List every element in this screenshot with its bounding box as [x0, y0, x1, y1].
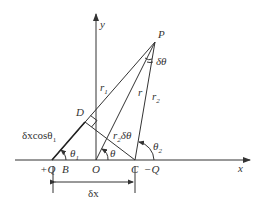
label-r: r [138, 86, 143, 98]
diagram-canvas: y x P D +Q B O C −Q r1 r r2 r2δθ δθ θ1 θ… [0, 0, 263, 210]
arc-dtheta-2 [147, 62, 153, 63]
label-D: D [75, 106, 84, 118]
label-B: B [62, 163, 69, 175]
label-minusQ: −Q [144, 163, 159, 175]
label-r2: r2 [152, 90, 160, 105]
label-O: O [92, 163, 100, 175]
label-theta2: θ2 [153, 140, 162, 155]
label-theta: θ [110, 147, 116, 159]
label-dxcos-theta1: δxcosθ1 [22, 129, 57, 144]
label-r1: r1 [100, 81, 108, 96]
arc-theta1 [61, 150, 66, 160]
label-r2dtheta: r2δθ [113, 129, 132, 144]
arc-theta2 [139, 142, 154, 160]
dipole-diagram: y x P D +Q B O C −Q r1 r r2 r2δθ δθ θ1 θ… [0, 0, 263, 210]
line-r [96, 42, 155, 160]
label-dx: δx [88, 187, 99, 199]
label-C: C [131, 163, 139, 175]
arc-theta [102, 149, 108, 160]
x-axis-label: x [237, 162, 243, 174]
label-P: P [157, 28, 165, 40]
y-axis-label: y [99, 18, 105, 30]
label-plusQ: +Q [40, 163, 55, 175]
segment-BD [52, 122, 85, 160]
label-delta-theta: δθ [156, 55, 167, 67]
